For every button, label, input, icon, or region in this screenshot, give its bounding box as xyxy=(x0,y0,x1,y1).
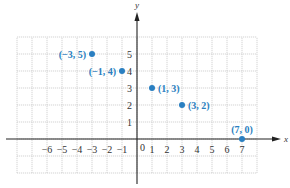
y-tick-label: 5 xyxy=(127,49,132,60)
x-axis-label: x xyxy=(283,134,288,144)
x-tick-label: −6 xyxy=(42,144,53,155)
point-label: (7, 0) xyxy=(231,124,253,136)
x-tick-label: 2 xyxy=(165,144,170,155)
y-tick-label: 3 xyxy=(127,83,132,94)
x-tick-label: −2 xyxy=(102,144,113,155)
data-point xyxy=(89,51,95,57)
point-label: (−1, 4) xyxy=(89,66,116,78)
x-tick-label: −1 xyxy=(117,144,128,155)
x-tick-label: 7 xyxy=(240,144,245,155)
x-axis-arrow-icon xyxy=(272,137,281,142)
point-label: (3, 2) xyxy=(188,100,210,112)
point-label: (1, 3) xyxy=(158,83,180,95)
x-tick-label: −4 xyxy=(72,144,83,155)
y-tick-label: 4 xyxy=(127,66,132,77)
data-point xyxy=(239,136,245,142)
data-point xyxy=(119,68,125,74)
x-tick-label: 4 xyxy=(195,144,200,155)
y-tick-label: 2 xyxy=(127,100,132,111)
x-tick-label: 3 xyxy=(180,144,185,155)
x-tick-label: 6 xyxy=(225,144,230,155)
x-tick-label: 5 xyxy=(210,144,215,155)
origin-label: 0 xyxy=(140,142,145,153)
data-points: (−3, 5)(−1, 4)(1, 3)(3, 2)(7, 0) xyxy=(59,49,253,143)
coordinate-plane: xy −6−5−4−3−2−11234567123450 (−3, 5)(−1,… xyxy=(0,0,290,188)
y-axis-arrow-icon xyxy=(135,12,140,21)
x-tick-label: −3 xyxy=(87,144,98,155)
point-label: (−3, 5) xyxy=(59,49,86,61)
y-tick-label: 1 xyxy=(127,117,132,128)
x-tick-label: −5 xyxy=(57,144,68,155)
data-point xyxy=(179,102,185,108)
x-tick-label: 1 xyxy=(150,144,155,155)
data-point xyxy=(149,85,155,91)
y-axis-label: y xyxy=(134,0,139,10)
